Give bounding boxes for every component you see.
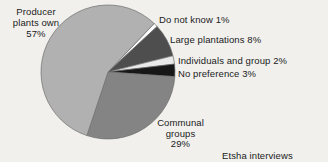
label-communal-groups: Communal groups 29%: [152, 118, 209, 150]
sample-size-note: Etsha interviews (n=123): [222, 150, 328, 162]
pie-chart-figure: Producer plants own 57% Do not know 1% L…: [0, 0, 328, 162]
label-do-not-know: Do not know 1%: [159, 14, 230, 25]
label-no-preference: No preference 3%: [178, 68, 256, 79]
label-producer-plants-own: Producer plants own 57%: [6, 6, 66, 39]
label-large-plantations: Large plantations 8%: [170, 34, 261, 45]
label-individuals-and-group: Individuals and group 2%: [178, 55, 287, 66]
